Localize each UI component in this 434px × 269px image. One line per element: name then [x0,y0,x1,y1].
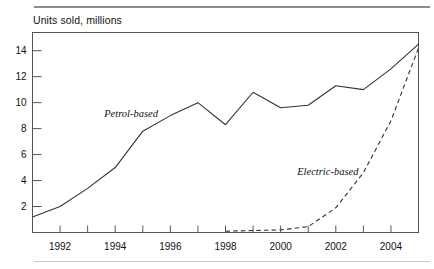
x-axis-ticks [60,226,391,233]
x-tick-label: 2000 [270,241,293,252]
y-axis-tick-labels: 2468101214 [15,45,27,212]
series-line-petrol-based [33,44,419,217]
y-tick-label: 8 [21,123,27,134]
x-tick-label: 1992 [49,241,72,252]
y-tick-label: 4 [21,175,27,186]
x-tick-label: 2004 [380,241,403,252]
chart-plot-area: 2468101214 1992199419961998200020022004 … [0,0,434,269]
y-tick-label: 10 [15,97,27,108]
x-tick-label: 2002 [325,241,348,252]
x-tick-label: 1998 [214,241,237,252]
plot-frame [33,33,419,233]
y-tick-label: 14 [15,45,27,56]
series-line-electric-based [226,48,419,231]
series-label-electric-based: Electric-based [296,166,359,177]
y-tick-label: 2 [21,201,27,212]
bottom-divider-rule [34,261,430,262]
x-tick-label: 1994 [104,241,127,252]
y-tick-label: 12 [15,71,27,82]
chart-figure: Units sold, millions 2468101214 19921994… [0,0,434,269]
x-tick-label: 1996 [159,241,182,252]
x-axis-tick-labels: 1992199419961998200020022004 [49,241,403,252]
series-label-petrol-based: Petrol-based [103,108,159,119]
y-tick-label: 6 [21,149,27,160]
y-axis-ticks [33,51,42,207]
